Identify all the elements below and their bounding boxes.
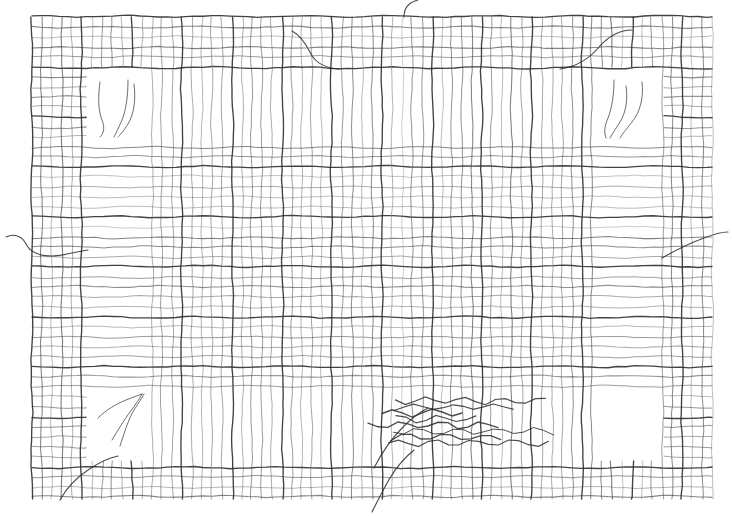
woven-mesh-illustration	[0, 0, 732, 516]
drawing-canvas	[0, 0, 732, 516]
